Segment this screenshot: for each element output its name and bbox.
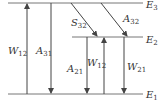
a32-label: A32 (122, 13, 139, 26)
level-e2-label: E2 (145, 34, 158, 47)
w21-label: W21 (127, 61, 146, 74)
a31-label: A31 (35, 45, 52, 58)
w12-label: W12 (87, 57, 106, 70)
level-e3-label: E3 (145, 0, 158, 12)
energy-level-diagram: E3 E2 E1 W12 A31 S32 A32 A21 W12 W21 (0, 0, 161, 112)
w12-pump-label: W12 (8, 45, 27, 58)
level-e1-label: E1 (145, 89, 158, 102)
s32-label: S32 (71, 17, 87, 30)
a21-label: A21 (66, 63, 83, 76)
